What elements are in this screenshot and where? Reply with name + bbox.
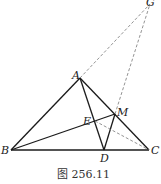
label-m: M	[116, 106, 129, 119]
segment-ad	[80, 78, 104, 150]
figure-caption: 图 256.11	[57, 168, 110, 181]
label-d: D	[99, 152, 109, 165]
label-e: E	[82, 115, 91, 128]
label-g: G	[146, 0, 155, 9]
label-c: C	[151, 144, 160, 157]
dashed-ag	[80, 4, 150, 78]
label-a: A	[71, 69, 80, 82]
geometry-figure: G A M E B D C 图 256.11	[0, 0, 161, 184]
dashed-mg	[115, 4, 150, 114]
segment-ab	[11, 78, 80, 150]
segment-bm	[11, 114, 115, 150]
segment-dm	[104, 114, 115, 150]
label-b: B	[0, 144, 9, 157]
